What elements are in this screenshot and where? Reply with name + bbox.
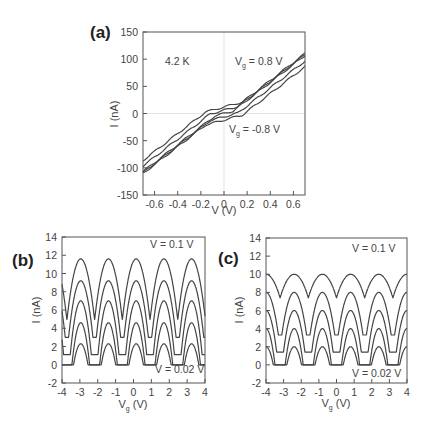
top-curve-label: V = 0.1 V [352, 242, 396, 254]
y-tick-label: 14 [45, 231, 57, 243]
y-tick-label: -50 [123, 135, 138, 147]
x-tick-label: 3 [184, 386, 190, 398]
x-tick-label: -2 [93, 386, 102, 398]
x-tick-label: -1 [111, 386, 120, 398]
y-tick-label: 2 [255, 341, 261, 353]
y-axis-label: I (nA) [233, 297, 245, 324]
x-tick-label: 2 [369, 386, 375, 398]
figure: (a) -0.6-0.4-0.200.20.40.6-150-100-50050… [0, 0, 430, 433]
y-tick-label: 0 [255, 359, 261, 371]
y-tick-label: 0 [51, 359, 57, 371]
y-tick-label: 6 [51, 304, 57, 316]
y-tick-label: 0 [132, 108, 138, 120]
y-tick-label: 50 [126, 80, 138, 92]
panel-c-label: (c) [218, 249, 239, 268]
y-tick-label: -100 [117, 162, 138, 174]
y-tick-label: 12 [45, 249, 57, 261]
x-tick-label: -2 [297, 386, 306, 398]
oscillation-curve [62, 259, 205, 319]
x-tick-label: -0.6 [146, 198, 164, 210]
vg-high-label: Vg = 0.8 V [235, 55, 282, 70]
x-tick-label: 0.6 [286, 198, 301, 210]
x-tick-label: 1 [351, 386, 357, 398]
panel-a-chart: (a) -0.6-0.4-0.200.20.40.6-150-100-50050… [90, 23, 305, 216]
bottom-curve-label: V = 0.02 V [352, 367, 401, 379]
panel-b-label: (b) [12, 251, 34, 270]
x-tick-label: 2 [166, 386, 172, 398]
y-tick-label: -2 [252, 377, 261, 389]
oscillation-curves [266, 274, 407, 365]
y-tick-label: 8 [255, 286, 261, 298]
x-tick-label: 4 [404, 386, 410, 398]
x-axis-label: Vg (V) [119, 398, 148, 413]
bottom-curve-label: V = 0.02 V [155, 363, 204, 375]
vg-low-label: Vg = -0.8 V [229, 123, 280, 138]
x-axis-label: V (V) [211, 204, 236, 216]
y-tick-label: 100 [120, 53, 138, 65]
y-tick-label: -2 [48, 377, 57, 389]
y-tick-label: 4 [255, 323, 261, 335]
y-tick-label: -150 [117, 189, 138, 201]
x-tick-label: 4 [202, 386, 208, 398]
x-axis-label: Vg (V) [322, 397, 351, 412]
x-tick-label: 1 [148, 386, 154, 398]
x-tick-label: 0.4 [263, 198, 278, 210]
oscillation-curve [266, 274, 407, 298]
panel-b-chart: (b) -4-3-2-101234-202468101214 V = 0.1 V… [12, 231, 208, 413]
y-tick-label: 2 [51, 341, 57, 353]
x-tick-label: -4 [57, 386, 66, 398]
y-tick-label: 8 [51, 286, 57, 298]
axis-ticks: -0.6-0.4-0.200.20.40.6-150-100-500501001… [117, 26, 301, 210]
oscillation-curves [62, 259, 205, 365]
y-axis-label: I (nA) [30, 297, 42, 324]
panel-c-chart: (c) -4-3-2-101234-202468101214 V = 0.1 V… [218, 232, 410, 412]
y-tick-label: 14 [249, 232, 261, 244]
y-tick-label: 4 [51, 322, 57, 334]
y-tick-label: 10 [45, 268, 57, 280]
oscillation-curve [266, 311, 407, 353]
y-tick-label: 10 [249, 268, 261, 280]
x-tick-label: -4 [261, 386, 270, 398]
y-axis-label: I (nA) [108, 101, 120, 128]
x-tick-label: -0.2 [192, 198, 210, 210]
x-tick-label: 3 [386, 386, 392, 398]
y-tick-label: 12 [249, 250, 261, 262]
x-tick-label: -3 [75, 386, 84, 398]
top-curve-label: V = 0.1 V [150, 238, 194, 250]
y-tick-label: 150 [120, 26, 138, 38]
x-tick-label: 0.2 [240, 198, 255, 210]
temperature-label: 4.2 K [165, 55, 190, 67]
oscillation-curve [266, 329, 407, 365]
x-tick-label: -3 [279, 386, 288, 398]
panel-a-label: (a) [90, 23, 111, 42]
y-tick-label: 6 [255, 305, 261, 317]
x-tick-label: -0.4 [169, 198, 187, 210]
x-tick-label: 0 [131, 386, 137, 398]
